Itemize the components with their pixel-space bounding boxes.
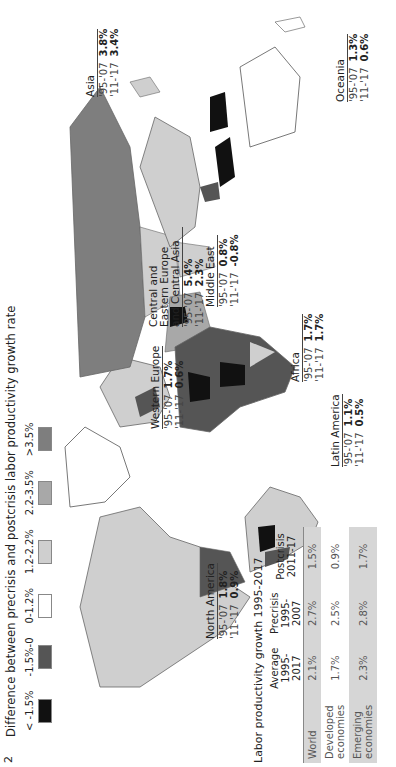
- table-row: World 2.1% 2.7% 1.5%: [304, 527, 322, 763]
- productivity-table: Average 1995-2017 Precrisis 1995-2007 Po…: [268, 527, 377, 763]
- region-label-western-europe: Western Europe '95-'071.7% '11-'170.6%: [150, 346, 185, 429]
- legend-swatch: [38, 427, 52, 451]
- table-header: Precrisis 1995-2007: [268, 586, 304, 641]
- table-header: Average 1995-2017: [268, 641, 304, 696]
- legend-item: < -1.5%: [24, 690, 52, 731]
- table-header: Postcrisis 2011-17: [268, 527, 304, 586]
- legend-swatch: [38, 699, 52, 723]
- region-label-africa: Africa '95-'071.7% '11-'171.7%: [290, 314, 325, 382]
- table-row: Developed economies 1.7% 2.5% 0.9%: [321, 527, 349, 763]
- legend-item: 2.2-3.5%: [24, 470, 52, 515]
- legend-item: 1.2-2.2%: [24, 529, 52, 574]
- region-label-middle-east: Middle East '95-'070.8% '11-'17-0.8%: [205, 235, 240, 307]
- legend-title: Difference between precrisis and postcri…: [4, 306, 18, 737]
- legend-swatch: [38, 540, 52, 564]
- figure-frame: 2 Difference between precrisis and postc…: [0, 0, 396, 767]
- legend-swatch: [38, 481, 52, 505]
- table-header: [268, 695, 304, 763]
- legend-item: -1.5%-0: [24, 637, 52, 676]
- region-label-latin-america: Latin America '95-'071.1% '11-'170.5%: [330, 394, 365, 467]
- table-title: Labor productivity growth 1995-2017: [252, 557, 265, 763]
- region-label-oceania: Oceania '95-'071.3% '11-'170.6%: [335, 34, 370, 102]
- legend-item: 0-1.2%: [24, 588, 52, 623]
- legend-swatch: [38, 594, 52, 618]
- table-row: Emerging economies 2.3% 2.8% 1.7%: [349, 527, 377, 763]
- region-label-central-eastern-europe-central-asia: Central and Eastern Europe and Central A…: [148, 227, 205, 327]
- region-label-north-america: North America '95-'071.8% '11-'170.9%: [205, 563, 240, 639]
- legend-swatch: [38, 645, 52, 669]
- legend-item: >3.5%: [24, 422, 52, 456]
- region-label-asia: Asia '95-'073.8% '11-'173.4%: [85, 29, 120, 97]
- page-number: 2: [2, 756, 15, 763]
- legend: < -1.5% -1.5%-0 0-1.2% 1.2-2.2% 2.2-3.5%…: [24, 422, 52, 731]
